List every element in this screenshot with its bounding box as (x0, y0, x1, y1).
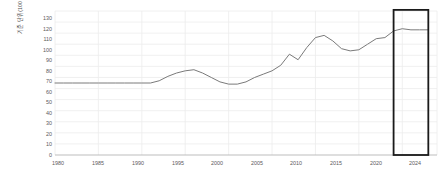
line-chart: 기준 단위(100 = 2016년 수치) 130 120 110 100 90… (0, 0, 444, 181)
plot-area (0, 0, 444, 181)
horizontal-gridlines (55, 11, 437, 144)
data-series-line (55, 29, 428, 84)
